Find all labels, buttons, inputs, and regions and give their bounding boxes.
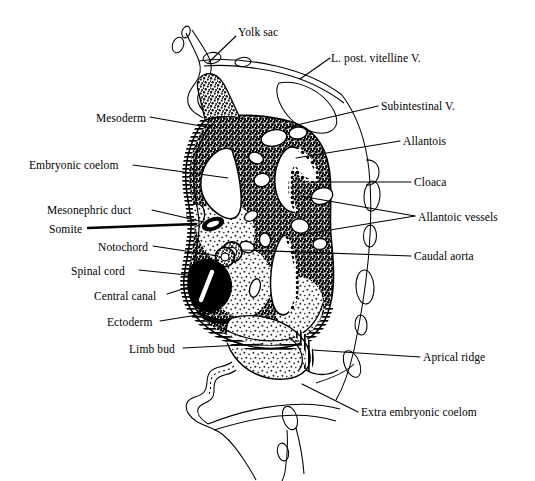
leader-yolk-sac [209,36,236,62]
label-mesonephric-duct: Mesonephric duct [47,205,131,217]
label-notochord: Notochord [98,242,148,254]
leader-subintestinal-v [284,106,378,128]
label-embryonic-coelom: Embryonic coelom [29,160,118,172]
label-yolk-sac: Yolk sac [238,27,278,39]
label-ectoderm: Ectoderm [107,317,153,329]
label-subintestinal-v: Subintestinal V. [381,101,455,113]
embryo-cross-section-figure: Yolk sac L. post. vitelline V. Subintest… [0,0,535,481]
leader-l-post-vitelline-v [300,58,330,79]
label-caudal-aorta: Caudal aorta [414,251,474,263]
leader-extra-embryonic-coelom [302,384,358,412]
label-extra-embryonic-coelom: Extra embryonic coelom [361,407,477,419]
label-mesoderm: Mesoderm [96,113,146,125]
label-aprical-ridge: Aprical ridge [423,352,485,364]
label-somite: Somite [49,224,82,236]
label-limb-bud: Limb bud [129,344,175,356]
label-l-post-vitelline-v: L. post. vitelline V. [331,53,421,65]
label-cloaca: Cloaca [414,177,447,189]
leader-aprical-ridge [312,350,420,357]
leader-somite [88,224,196,228]
label-allantois: Allantois [403,136,446,148]
label-spinal-cord: Spinal cord [71,266,125,278]
label-central-canal: Central canal [94,291,156,303]
label-allantoic-vessels: Allantoic vessels [418,212,498,224]
